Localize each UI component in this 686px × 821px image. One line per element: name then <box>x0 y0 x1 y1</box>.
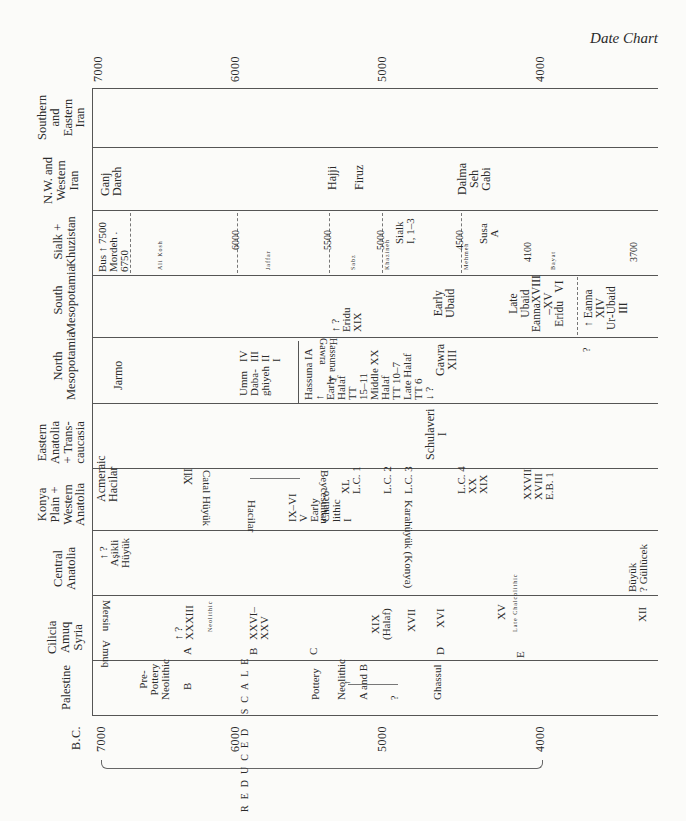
divider-south-meso <box>577 277 578 335</box>
entry-early-ubaid: Early Ubaid <box>432 289 456 318</box>
entry-catal-huyuk: Catal Hüyük <box>201 470 212 526</box>
row-border <box>92 210 658 211</box>
entry-xxvi-xxv: XXVI– XXV <box>248 607 270 640</box>
divider-6750 <box>130 213 131 273</box>
row-label-eastern-anatolia-transcaucasia: EasternAnatolia+ Trans-caucasia <box>36 421 87 464</box>
row-border <box>92 337 658 338</box>
entry-pottery: Pottery <box>310 668 321 700</box>
entry-mersin: Mersin <box>101 600 112 631</box>
row-border <box>92 468 658 469</box>
entry-pre-pottery-neolithic: Pre- Pottery Neolithic <box>138 659 171 700</box>
entry-xvi: XVI <box>435 608 446 628</box>
arrow-up-icon: ← <box>183 470 192 480</box>
entry-d: D <box>435 647 446 655</box>
reduced-scale-brace <box>101 760 543 769</box>
entry-ganj-dareh: Ganj Dareh <box>99 167 123 196</box>
entry-late-ubaid: Late Ubaid EannaXVIII –XV Eridu VI <box>508 275 566 332</box>
entry-a: A <box>182 647 193 655</box>
row-label-nw-western-iran: N.W. andWesternIran <box>42 157 80 204</box>
entry-late-chalcolithic: Late Chalcolithic <box>512 574 518 632</box>
entry-question: ? <box>390 696 400 700</box>
entry-beycesultan: Beycesultan <box>319 470 330 524</box>
entry-eanna-xiv: ↑ Eanna XIV Ur-Ubaid III <box>583 286 629 330</box>
tick-top-5000: 5000 <box>376 56 388 82</box>
palestine-arrow <box>348 684 398 685</box>
entry-lc2: L.C. 2 <box>382 466 393 494</box>
entry-hassuna-gawra-inverted: Hassuna ⊥ Gawra <box>318 338 338 384</box>
entry-xii: XII <box>637 607 648 622</box>
entry-xvii: XVII <box>406 609 417 632</box>
entry-hajji: Hajji <box>326 166 338 190</box>
row-border <box>92 403 658 404</box>
row-border <box>92 530 658 531</box>
entry-dalma-seh-gabi: Dalma Seh Gabi <box>456 163 492 195</box>
entry-umm-levels: IV III II I <box>238 350 282 362</box>
entry-khazineh: Khazineh <box>384 239 390 270</box>
entry-xv: XV <box>496 604 507 620</box>
row-border <box>92 88 658 89</box>
entry-question: ? <box>582 348 592 352</box>
entry-ghassul: Ghassul <box>432 665 443 700</box>
entry-xxvii: XXVII XVIII E.B. 1 <box>522 469 555 500</box>
row-label-south-mesopotamia: SouthMesopotamia <box>52 266 78 334</box>
arrow-left-icon: ← <box>343 676 352 686</box>
entry-bayat: Bayat <box>550 251 556 270</box>
catal-arrow <box>250 478 300 479</box>
entry-lc3: L.C. 3 <box>403 466 414 494</box>
row-label-konya-western-anatolia: KonyaPlain +WesternAnatolia <box>36 483 87 526</box>
entry-ali-kosh: Ali Kosh <box>157 240 163 270</box>
tick-bottom-5000: 5000 <box>376 726 388 752</box>
entry-hacilar: Hacilar <box>246 500 257 532</box>
divider-north-meso <box>298 341 299 403</box>
tick-top-4000: 4000 <box>534 56 546 82</box>
entry-b: B <box>182 683 193 690</box>
entry-karahuyuk: Karahüyük (Konya) <box>403 500 414 588</box>
entry-c: C <box>308 648 319 655</box>
row-label-sialk-khuzistan: Sialk +Khuzistan <box>52 216 78 267</box>
reduced-scale-label: REDUCED SCALE <box>240 653 250 812</box>
entry-neolithic: Neolithic <box>207 601 213 632</box>
entry-bus-mordeh: Bus ↑ 7500 Mordeh . 6750 <box>97 222 130 272</box>
entry-e: E <box>515 651 526 658</box>
row-border <box>92 660 658 661</box>
row-label-palestine: Palestine <box>60 665 73 710</box>
entry-jarmo: Jarmo <box>112 361 124 390</box>
entry-amuq: Amuq <box>101 640 112 668</box>
entry-3700: 3700 <box>629 242 639 262</box>
entry-xix-halaf: XIX (Halaf) <box>370 608 392 640</box>
entry-acmeraic-hacilar: Acmeraic Hacilar <box>95 455 119 502</box>
entry-mehmeh: Mehmeh <box>463 243 469 270</box>
entry-lc4: L.C. 4 XX XIX <box>456 466 489 494</box>
entry-buyuk-gullucek: Büyük ? Güllücek <box>627 544 649 592</box>
tick-top-7000: 7000 <box>92 56 104 82</box>
entry-asikli-huyuk: ↑ ? Aşikli Hüyük <box>98 538 131 568</box>
entry-jaffar: Jaffar <box>265 250 271 270</box>
row-border <box>92 595 658 596</box>
row-border <box>92 147 658 148</box>
chart-title: Date Chart <box>590 30 658 47</box>
tick-bottom-7000: 7000 <box>95 726 107 752</box>
entry-4100: 4100 <box>523 242 533 262</box>
entry-umm-dabaghiyeh: Umm Daba- ghiyeh <box>238 366 271 396</box>
unit-label: B.C. <box>70 726 82 750</box>
entry-6000: 6000 <box>231 230 241 250</box>
left-border <box>92 88 93 715</box>
row-label-north-mesopotamia: NorthMesopotamia <box>52 332 78 400</box>
entry-eridu-xix: ↑ ? Eridu XIX <box>330 308 363 332</box>
entry-a-and-b: A and B <box>358 664 369 700</box>
entry-gawra-xiii: Gawra XIII <box>434 344 458 376</box>
entry-schulaveri: Schulaveri I <box>424 409 448 460</box>
row-label-cilicia-amuq-syria: CiliciaAmuqSyria <box>46 621 84 654</box>
row-label-southern-eastern-iran: SouthernandEasternIran <box>36 95 87 140</box>
entry-xl-lc1: XL L.C. 1 <box>340 466 362 494</box>
entry-sabz: Sabz <box>350 254 356 270</box>
entry-sialk-i: Sialk I, 1–3 <box>394 218 416 244</box>
row-border <box>92 275 658 276</box>
row-border <box>92 715 658 716</box>
entry-susa-a: Susa A <box>478 223 500 244</box>
tick-top-6000: 6000 <box>229 56 241 82</box>
entry-5500: 5500 <box>323 230 333 250</box>
row-label-central-anatolia: CentralAnatolia <box>52 547 78 590</box>
entry-xxxiii: ↑ ? XXXIII <box>173 605 195 640</box>
tick-bottom-4000: 4000 <box>534 726 546 752</box>
